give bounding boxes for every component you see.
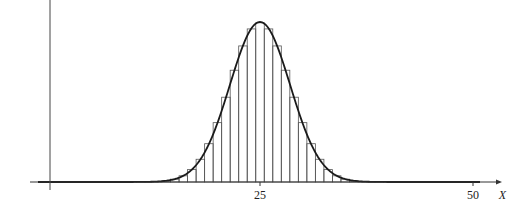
normal-curve [38,22,480,182]
chart-container: 25 50 X [0,0,510,206]
histogram-bar [290,97,299,182]
histogram-bars [128,23,392,182]
histogram-bar [281,70,290,182]
histogram-chart: 25 50 X [0,0,510,206]
histogram-bar [256,23,265,182]
histogram-bar [239,46,248,182]
histogram-bar [247,29,256,182]
histogram-bar [230,70,239,182]
tick-label-25: 25 [254,188,266,202]
histogram-bar [273,46,282,182]
histogram-bar [264,29,273,182]
x-axis-arrow-icon [496,180,502,185]
tick-label-50: 50 [467,188,479,202]
x-axis-label: X [498,188,507,202]
histogram-bar [222,97,231,182]
